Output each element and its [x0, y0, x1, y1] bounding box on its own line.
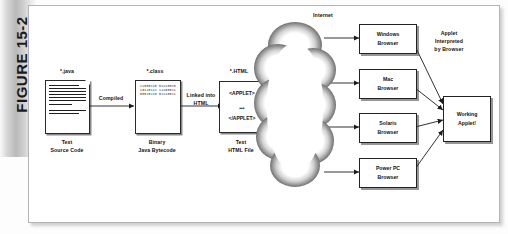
- browser-label-solaris: Solaris Browser: [378, 119, 399, 137]
- working-applet-box[interactable]: Working Applet!: [443, 96, 491, 142]
- browser-label-windows: Windows Browser: [377, 30, 400, 48]
- edge-powerpc-to-applet-line: [415, 130, 443, 169]
- java-file-top-label: *.java: [39, 68, 95, 76]
- browser-box-powerpc[interactable]: Power PC Browser: [359, 158, 417, 188]
- browser-label-powerpc: Power PC Browser: [376, 164, 400, 182]
- working-applet-label: Working Applet!: [457, 110, 478, 128]
- edge-windows-to-applet-line: [415, 46, 443, 104]
- edge-linked-label: Linked into HTML: [177, 92, 225, 108]
- browser-box-windows[interactable]: Windows Browser: [359, 24, 417, 54]
- java-file-bottom-label: Text Source Code: [33, 139, 101, 155]
- edge-interpreted-label: Applet Interpreted by Browser: [411, 30, 487, 53]
- diagram-canvas: *.java Text Source Code Compiled *.class…: [28, 5, 500, 223]
- source-code-lines-icon: [49, 85, 86, 116]
- internet-label: Internet: [274, 12, 372, 20]
- edge-mac-to-applet-line: [415, 88, 443, 110]
- java-source-document: [45, 80, 90, 134]
- browser-box-solaris[interactable]: Solaris Browser: [359, 113, 417, 143]
- browser-label-mac: Mac Browser: [378, 75, 399, 93]
- figure-number-label: FIGURE 15-2: [13, 0, 30, 130]
- browser-box-mac[interactable]: Mac Browser: [359, 69, 417, 99]
- class-file-bottom-label: Binary Java Bytecode: [121, 139, 193, 155]
- edge-solaris-to-applet-line: [415, 120, 443, 127]
- figure-page: FIGURE 15-2: [0, 0, 508, 234]
- internet-cloud-icon: [254, 22, 336, 187]
- binary-bits-text: 11000110 01110010 10110111 11100011 0001…: [136, 85, 180, 97]
- class-file-top-label: *.class: [127, 68, 183, 76]
- class-bytecode-document: 11000110 01110010 10110111 11100011 0001…: [135, 80, 181, 134]
- edge-compiled-label: Compiled: [87, 95, 135, 103]
